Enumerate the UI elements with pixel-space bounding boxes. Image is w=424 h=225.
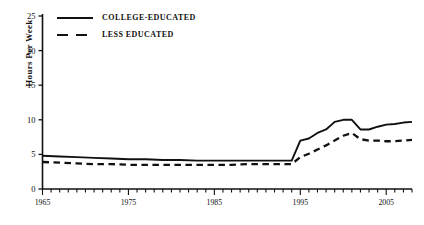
x-tick-label: 2005 [378,198,394,207]
x-axis: 19651975198519952005 [35,189,412,207]
legend-item-college-educated: COLLEGE-EDUCATED [57,9,196,26]
y-tick-label: 0 [31,184,35,194]
legend-dashed-line-swatch [57,30,93,40]
y-axis-label: Hours Per Week [24,0,34,108]
y-tick-label: 5 [31,149,35,159]
y-tick-label: 10 [27,115,36,125]
legend-label-college-educated: COLLEGE-EDUCATED [102,13,196,22]
x-tick-label: 1985 [207,198,223,207]
x-tick-label: 1975 [121,198,137,207]
data-series-group [43,120,413,165]
legend-label-less-educated: LESS EDUCATED [102,30,174,39]
chart-legend: COLLEGE-EDUCATED LESS EDUCATED [57,9,196,43]
series-line-college-educated [43,120,413,161]
legend-item-less-educated: LESS EDUCATED [57,26,196,43]
chart-container: Hours Per Week COLLEGE-EDUCATED LESS EDU… [0,0,424,225]
x-tick-label: 1965 [35,198,51,207]
legend-solid-line-swatch [57,13,93,23]
x-tick-label: 1995 [292,198,308,207]
